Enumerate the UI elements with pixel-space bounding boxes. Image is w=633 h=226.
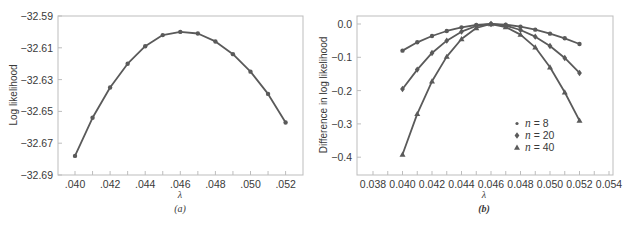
data-point-marker <box>533 27 537 31</box>
y-tick-label: −0.4 <box>331 151 352 163</box>
y-tick-label: −32.67 <box>21 137 54 149</box>
data-point-marker <box>533 33 538 39</box>
legend-marker-triangle-icon <box>514 145 520 150</box>
panel-b-y-axis-title: Difference in log likelihood <box>318 37 329 154</box>
data-point-marker <box>231 52 235 56</box>
data-point-marker <box>73 154 77 158</box>
panel-a-x-axis: .040.042.044.046.048.050.052 <box>65 171 296 190</box>
panel-a-y-axis: −32.59−32.61−32.63−32.65−32.67−32.69 <box>21 10 62 181</box>
data-point-marker <box>283 120 287 124</box>
data-point-marker <box>108 85 112 89</box>
data-point-marker <box>548 31 552 35</box>
data-point-marker <box>266 92 270 96</box>
data-point-marker <box>415 40 419 44</box>
panel-b-plot-frame <box>357 16 613 175</box>
panel-b-x-axis-title: λ <box>481 189 487 200</box>
panel-a-series <box>73 30 288 158</box>
panel-b-label: (b) <box>478 203 490 215</box>
x-tick-label: .040 <box>65 178 86 190</box>
legend-marker-circle-icon <box>515 122 518 125</box>
x-tick-label: 0.040 <box>389 178 415 190</box>
series-line-n8 <box>403 24 580 51</box>
y-tick-label: −32.65 <box>21 105 54 117</box>
data-point-marker <box>161 33 165 37</box>
y-tick-label: −0.2 <box>331 85 352 97</box>
legend-label: n = 20 <box>525 129 555 141</box>
legend-marker-diamond-icon <box>515 132 520 138</box>
legend-label: n = 8 <box>525 117 549 129</box>
data-point-marker <box>414 111 420 116</box>
data-point-marker <box>577 42 581 46</box>
x-tick-label: .050 <box>240 178 261 190</box>
x-tick-label: 0.048 <box>507 178 533 190</box>
panel-a-label: (a) <box>174 203 186 215</box>
data-point-marker <box>213 39 217 43</box>
x-tick-label: 0.050 <box>537 178 563 190</box>
data-point-marker <box>400 48 404 52</box>
legend-item: n = 8 <box>515 117 548 129</box>
y-tick-label: 0.0 <box>337 18 352 30</box>
y-tick-label: −0.1 <box>331 51 352 63</box>
data-point-marker <box>563 36 567 40</box>
panel-b-legend: n = 8n = 20n = 40 <box>514 117 555 153</box>
panel-b-x-axis: 0.0380.0400.0420.0440.0460.0480.0500.052… <box>360 171 622 190</box>
x-tick-label: .048 <box>205 178 226 190</box>
x-tick-label: 0.044 <box>448 178 474 190</box>
data-point-marker <box>196 31 200 35</box>
log-likelihood-line <box>75 32 286 156</box>
x-tick-label: 0.054 <box>596 178 622 190</box>
figure: −32.59−32.61−32.63−32.65−32.67−32.69 .04… <box>0 0 633 226</box>
data-point-marker <box>459 28 464 34</box>
data-point-marker <box>248 69 252 73</box>
x-tick-label: .044 <box>135 178 156 190</box>
y-tick-label: −32.59 <box>21 10 54 22</box>
x-tick-label: 0.042 <box>419 178 445 190</box>
panel-a-x-axis-title: λ <box>177 189 183 200</box>
data-point-marker <box>400 152 406 157</box>
data-point-marker <box>143 44 147 48</box>
panel-a-chart: −32.59−32.61−32.63−32.65−32.67−32.69 .04… <box>8 10 303 215</box>
data-point-marker <box>90 116 94 120</box>
x-tick-label: .042 <box>100 178 121 190</box>
x-tick-label: 0.038 <box>360 178 386 190</box>
data-point-marker <box>445 29 449 33</box>
panel-a-plot-frame <box>58 16 303 175</box>
y-tick-label: −32.61 <box>21 42 54 54</box>
figure-caption-cutoff <box>0 216 633 226</box>
panel-b-chart: 0.0−0.1−0.2−0.3−0.4 0.0380.0400.0420.044… <box>318 16 622 215</box>
legend-item: n = 40 <box>514 141 555 153</box>
legend-item: n = 20 <box>515 129 555 141</box>
x-tick-label: .052 <box>275 178 296 190</box>
data-point-marker <box>430 34 434 38</box>
data-point-marker <box>178 30 182 34</box>
data-point-marker <box>125 62 129 66</box>
panel-a-y-axis-title: Log likelihood <box>8 64 19 125</box>
y-tick-label: −32.63 <box>21 74 54 86</box>
y-tick-label: −32.69 <box>21 169 54 181</box>
legend-label: n = 40 <box>525 141 555 153</box>
panel-b-series <box>400 21 583 157</box>
x-tick-label: 0.052 <box>566 178 592 190</box>
y-tick-label: −0.3 <box>331 118 352 130</box>
